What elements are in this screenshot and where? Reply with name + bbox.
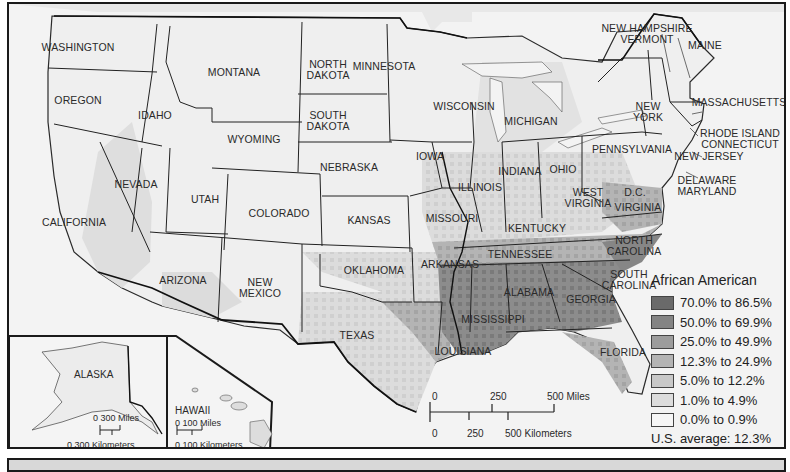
legend-swatch xyxy=(651,315,674,329)
state-label: VIRGINIA xyxy=(615,202,662,213)
state-label: OREGON xyxy=(54,95,101,106)
legend-title: African American xyxy=(651,272,786,288)
legend-item: 5.0% to 12.2% xyxy=(651,371,786,391)
state-label: IDAHO xyxy=(138,110,172,121)
state-label: COLORADO xyxy=(249,208,310,219)
state-label: NEBRASKA xyxy=(320,162,378,173)
state-label: RHODE ISLAND CONNECTICUT xyxy=(700,128,780,150)
state-label: OHIO xyxy=(549,164,576,175)
legend-label: 25.0% to 49.9% xyxy=(680,334,772,349)
state-label: NEW YORK xyxy=(633,101,663,123)
state-label: KENTUCKY xyxy=(508,223,566,234)
state-label: DELAWARE MARYLAND xyxy=(678,175,737,197)
legend-swatch xyxy=(651,374,674,388)
state-label: MASSACHUSETTS xyxy=(692,97,786,108)
scale-km-250: 250 xyxy=(467,428,484,439)
state-label: WISCONSIN xyxy=(433,101,495,112)
state-label: MISSOURI xyxy=(426,213,479,224)
state-label: SOUTH CAROLINA xyxy=(602,269,656,291)
map-legend: African American 70.0% to 86.5%50.0% to … xyxy=(651,272,786,446)
state-label: PENNSYLVANIA xyxy=(592,144,672,155)
state-label: MICHIGAN xyxy=(504,116,557,127)
choropleth-map: WASHINGTONOREGONIDAHOMONTANAWYOMINGNORTH… xyxy=(7,2,786,449)
state-label: TEXAS xyxy=(340,330,375,341)
state-label: ILLINOIS xyxy=(458,182,502,193)
alaska-scale-km: 0 300 Kilometers xyxy=(67,440,135,449)
state-label: NEVADA xyxy=(115,179,158,190)
state-label: NEW HAMPSHIRE VERMONT xyxy=(601,23,692,45)
state-label: WEST VIRGINIA xyxy=(565,187,612,209)
state-label: NEW MEXICO xyxy=(239,277,281,299)
state-label: WYOMING xyxy=(227,134,280,145)
legend-item: 1.0% to 4.9% xyxy=(651,391,786,411)
state-label: CALIFORNIA xyxy=(42,217,106,228)
state-label: TENNESSEE xyxy=(488,249,553,260)
legend-swatch xyxy=(651,335,674,349)
legend-swatch xyxy=(651,413,674,427)
hawaii-scale-miles: 0 100 Miles xyxy=(175,418,221,428)
legend-swatch xyxy=(651,393,674,407)
state-label: FLORIDA xyxy=(600,347,646,358)
inset-label-hawaii: HAWAII xyxy=(175,405,210,416)
legend-label: 1.0% to 4.9% xyxy=(680,393,757,408)
state-label: SOUTH DAKOTA xyxy=(307,110,350,132)
state-label: OKLAHOMA xyxy=(344,265,404,276)
scale-km-0: 0 xyxy=(432,428,438,439)
scale-km-500: 500 Kilometers xyxy=(505,428,572,439)
legend-label: 0.0% to 0.9% xyxy=(680,412,757,427)
us-average-note: U.S. average: 12.3% xyxy=(651,431,786,446)
state-label: KANSAS xyxy=(347,215,390,226)
legend-label: 70.0% to 86.5% xyxy=(680,295,772,310)
legend-label: 50.0% to 69.9% xyxy=(680,315,772,330)
scale-miles-0: 0 xyxy=(432,391,438,402)
state-label: MONTANA xyxy=(208,67,260,78)
legend-swatch xyxy=(651,296,674,310)
legend-label: 5.0% to 12.2% xyxy=(680,373,765,388)
legend-label: 12.3% to 24.9% xyxy=(680,354,772,369)
state-label: NORTH CAROLINA xyxy=(607,235,661,257)
state-label: LOUISIANA xyxy=(435,346,492,357)
scale-miles-250: 250 xyxy=(490,391,507,402)
state-label: D.C. xyxy=(624,187,645,198)
legend-item: 50.0% to 69.9% xyxy=(651,313,786,333)
state-label: MINNESOTA xyxy=(353,61,416,72)
legend-swatch xyxy=(651,354,674,368)
state-label: IOWA xyxy=(416,151,444,162)
state-label: UTAH xyxy=(191,194,219,205)
legend-item: 12.3% to 24.9% xyxy=(651,352,786,372)
state-label: MAINE xyxy=(688,40,722,51)
scale-miles-500: 500 Miles xyxy=(547,391,590,402)
legend-item: 25.0% to 49.9% xyxy=(651,332,786,352)
state-label: MISSISSIPPI xyxy=(461,314,525,325)
state-label: ARKANSAS xyxy=(421,259,479,270)
alaska-scale-miles: 0 300 Miles xyxy=(93,413,139,423)
legend-item: 0.0% to 0.9% xyxy=(651,410,786,430)
state-label: GEORGIA xyxy=(566,294,616,305)
state-label: NORTH DAKOTA xyxy=(307,59,350,81)
next-map-edge xyxy=(7,458,786,472)
state-label: NEW JERSEY xyxy=(674,151,743,162)
state-label: INDIANA xyxy=(498,166,541,177)
state-label: ALABAMA xyxy=(504,287,554,298)
inset-label-alaska: ALASKA xyxy=(74,369,114,380)
state-label: WASHINGTON xyxy=(42,42,115,53)
legend-item: 70.0% to 86.5% xyxy=(651,293,786,313)
state-label: ARIZONA xyxy=(159,275,206,286)
hawaii-scale-km: 0 100 Kilometers xyxy=(175,440,243,449)
